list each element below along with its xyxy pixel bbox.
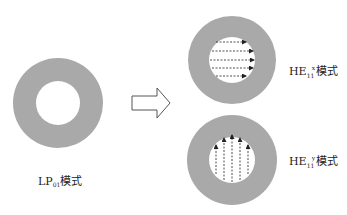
- he11x-label-suffix: 模式: [316, 65, 338, 78]
- he11y-label-indices: 11y: [307, 156, 316, 167]
- lp01-label-main: LP: [38, 175, 53, 188]
- he11y-fiber-cross-section: [187, 115, 277, 205]
- lp01-label-suffix: 模式: [60, 175, 82, 188]
- lp01-label: LP01模式: [38, 176, 82, 188]
- he11x-label-indices: 11x: [307, 66, 316, 77]
- he11x-label-main: HE: [289, 65, 307, 78]
- he11x-fiber-cross-section: [188, 16, 276, 104]
- transition-arrow-icon: [132, 88, 170, 118]
- he11y-label-suffix: 模式: [316, 155, 338, 168]
- lp01-fiber-cross-section: [13, 58, 103, 148]
- he11x-label-sup: x: [312, 65, 315, 71]
- he11y-label-sub: 11: [307, 163, 315, 169]
- he11y-label-sup: y: [312, 155, 315, 161]
- he11y-label: HE11y模式: [289, 156, 338, 167]
- he11x-label-sub: 11: [307, 73, 315, 79]
- he11x-label: HE11x模式: [289, 66, 338, 77]
- lp01-core: [36, 81, 80, 125]
- he11y-label-main: HE: [289, 155, 307, 168]
